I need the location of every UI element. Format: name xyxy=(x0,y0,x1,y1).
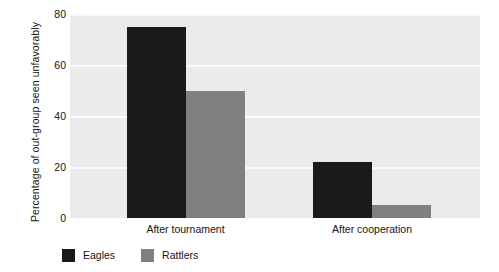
x-tick-label: After tournament xyxy=(146,223,224,235)
x-tick-label: After cooperation xyxy=(332,223,412,235)
plot-area xyxy=(70,14,480,218)
bar-group xyxy=(127,14,245,218)
legend-item-rattlers[interactable]: Rattlers xyxy=(141,249,198,262)
y-tick-label: 80 xyxy=(40,8,66,20)
legend-label: Rattlers xyxy=(162,249,198,261)
bar-eagles-after-cooperation[interactable] xyxy=(313,162,372,218)
y-tick-label: 60 xyxy=(40,59,66,71)
y-tick-label: 40 xyxy=(40,110,66,122)
legend-item-eagles[interactable]: Eagles xyxy=(62,249,115,262)
y-tick-label: 0 xyxy=(40,212,66,224)
bar-chart-figure: Percentage of out-group seen unfavorably… xyxy=(0,0,499,272)
chart-legend: EaglesRattlers xyxy=(62,247,224,263)
legend-label: Eagles xyxy=(83,249,115,261)
bar-rattlers-after-cooperation[interactable] xyxy=(372,205,431,218)
y-axis-tick-labels: 020406080 xyxy=(40,0,66,272)
y-tick-label: 20 xyxy=(40,161,66,173)
x-axis-tick-labels: After tournamentAfter cooperation xyxy=(70,223,480,239)
legend-swatch-eagles xyxy=(62,249,75,262)
legend-swatch-rattlers xyxy=(141,249,154,262)
bar-group xyxy=(313,14,431,218)
bar-eagles-after-tournament[interactable] xyxy=(127,27,186,218)
bar-rattlers-after-tournament[interactable] xyxy=(186,91,245,219)
